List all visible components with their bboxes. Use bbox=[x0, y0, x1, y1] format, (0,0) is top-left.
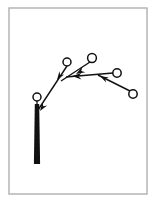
figure-root: Branching arrow diagram A thick vertical… bbox=[0, 0, 155, 204]
trunk-group bbox=[34, 104, 40, 164]
node-upper-left bbox=[63, 58, 71, 66]
branch-diagram-svg: Branching arrow diagram A thick vertical… bbox=[0, 0, 155, 204]
node-left bbox=[33, 93, 41, 101]
trunk bbox=[34, 104, 40, 164]
node-upper-middle bbox=[88, 54, 97, 63]
node-lower-right bbox=[129, 90, 137, 98]
node-right bbox=[113, 69, 121, 77]
figure-frame bbox=[9, 8, 147, 194]
